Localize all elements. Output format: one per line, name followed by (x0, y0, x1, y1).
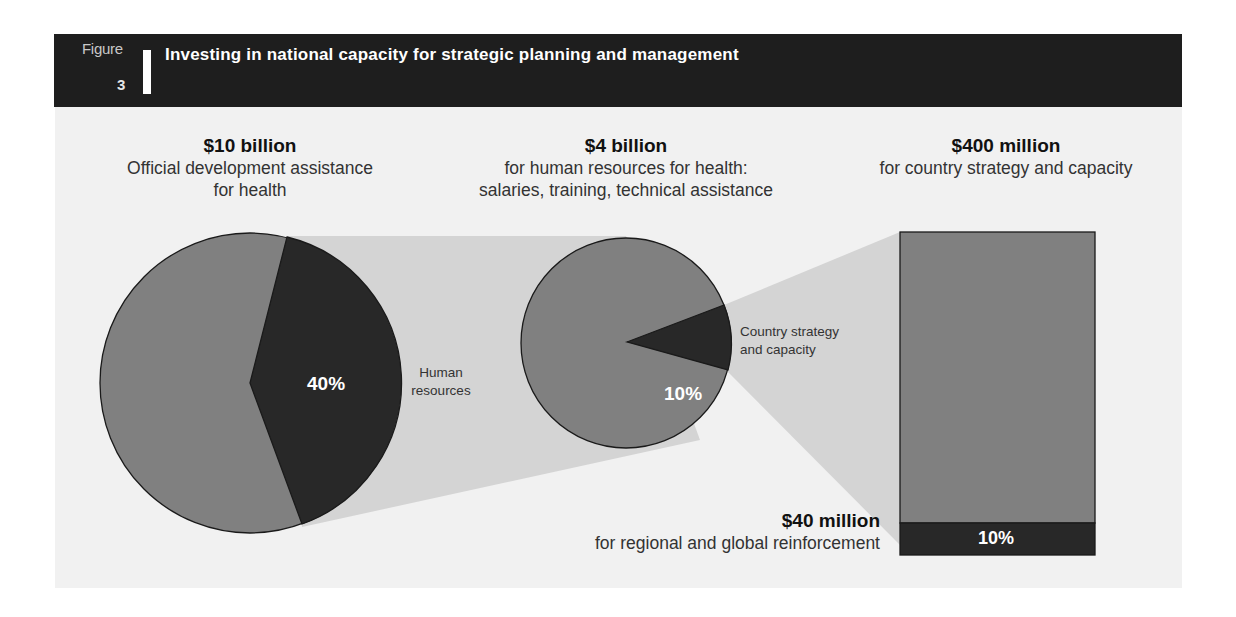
bar-heading: $400 million for country strategy and ca… (856, 134, 1156, 179)
connector-pie2-to-bar (724, 232, 900, 545)
pie2-amount: $4 billion (466, 134, 786, 157)
pie2-slice-label-line1: Country strategy (740, 323, 839, 341)
pie2-slice-percent: 10% (664, 383, 702, 405)
pie-hrh (521, 238, 731, 448)
pie2-slice-label-line2: and capacity (740, 341, 839, 359)
bar-amount: $400 million (856, 134, 1156, 157)
pie1-slice-label-line1: Human (405, 364, 477, 382)
bar-segment-desc: for regional and global reinforcement (560, 532, 880, 554)
bar-desc-line1: for country strategy and capacity (856, 157, 1156, 179)
pie1-desc-line1: Official development assistance (100, 157, 400, 179)
pie1-desc-line2: for health (100, 179, 400, 201)
pie1-slice-label-line2: resources (405, 382, 477, 400)
pie-odah (100, 233, 402, 533)
bar-segment-percent: 10% (978, 528, 1014, 549)
pie2-desc-line2: salaries, training, technical assistance (466, 179, 786, 201)
pie2-desc-line1: for human resources for health: (466, 157, 786, 179)
pie1-heading: $10 billion Official development assista… (100, 134, 400, 201)
bar-segment-amount: $40 million (560, 509, 880, 532)
bar-country-strategy (900, 232, 1095, 555)
pie1-slice-percent: 40% (307, 373, 345, 395)
bar-segment-label: $40 million for regional and global rein… (560, 509, 880, 554)
pie1-slice-label: Human resources (405, 364, 477, 400)
pie2-heading: $4 billion for human resources for healt… (466, 134, 786, 201)
pie1-amount: $10 billion (100, 134, 400, 157)
pie2-slice-label: Country strategy and capacity (740, 323, 839, 359)
